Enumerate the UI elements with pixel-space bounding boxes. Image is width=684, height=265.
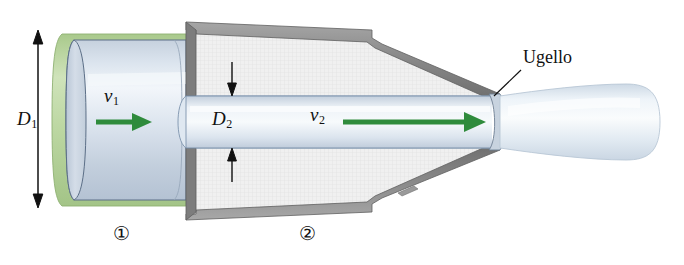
label-diameter-2-subscript: 2 — [226, 117, 233, 131]
hose-front-face — [66, 40, 86, 200]
nozzle-cutaway-figure: D1 v1 D2 v2 Ugello ① ② — [0, 0, 684, 265]
label-velocity-1-subscript: 1 — [112, 94, 119, 108]
label-nozzle: Ugello — [523, 47, 572, 68]
label-diameter-2-symbol: D — [212, 108, 226, 129]
nozzle-exit — [489, 84, 660, 160]
label-velocity-1: v1 — [104, 85, 119, 109]
inner-tube-highlight — [190, 106, 490, 112]
label-diameter-1-symbol: D — [17, 108, 31, 129]
nozzle-leader-line — [494, 70, 521, 96]
housing-left-wall-lower — [186, 148, 196, 220]
diagram-canvas — [0, 0, 684, 265]
label-velocity-2: v2 — [310, 104, 325, 128]
label-station-1: ① — [113, 222, 130, 245]
label-diameter-1: D1 — [17, 108, 37, 132]
label-station-2: ② — [299, 222, 316, 245]
label-velocity-2-subscript: 2 — [318, 113, 325, 127]
exit-jet — [500, 84, 660, 160]
housing-interior-lower — [196, 148, 490, 212]
label-diameter-2: D2 — [212, 108, 232, 132]
label-diameter-1-subscript: 1 — [31, 117, 38, 131]
hose-highlight — [88, 72, 186, 86]
housing-left-wall-upper — [186, 22, 196, 96]
